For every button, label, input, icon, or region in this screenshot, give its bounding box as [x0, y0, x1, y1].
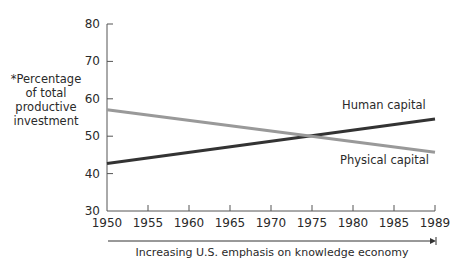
x-tick-label: 1960	[174, 216, 205, 230]
arrow-head-icon	[430, 238, 436, 244]
x-axis-label: Increasing U.S. emphasis on knowledge ec…	[136, 246, 409, 259]
human-capital-label: Human capital	[342, 98, 426, 112]
physical-capital-line	[107, 110, 435, 153]
x-tick-label: 1980	[338, 216, 369, 230]
physical-capital-label: Physical capital	[340, 153, 429, 167]
y-tick-label: 40	[85, 167, 100, 181]
line-chart: 3040506070801950195519601965197019751980…	[0, 0, 471, 269]
x-tick-label: 1970	[256, 216, 287, 230]
x-tick-label: 1965	[215, 216, 246, 230]
x-tick-label: 1975	[297, 216, 328, 230]
x-tick-label: 1989	[420, 216, 451, 230]
y-tick-label: 70	[85, 54, 100, 68]
y-tick-label: 50	[85, 129, 100, 143]
x-tick-label: 1985	[379, 216, 410, 230]
x-tick-label: 1950	[92, 216, 123, 230]
x-tick-label: 1955	[133, 216, 164, 230]
y-tick-label: 80	[85, 17, 100, 31]
y-tick-label: 60	[85, 92, 100, 106]
